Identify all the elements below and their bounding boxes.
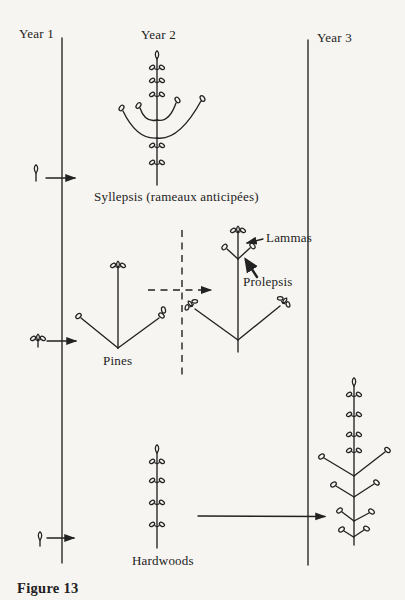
pine-shoot-year2	[75, 261, 166, 348]
hardwoods-caption: Hardwoods	[132, 554, 194, 567]
year1-bud-icon-hardwoods	[38, 532, 41, 546]
hardwoods-growth-arrow-long	[198, 516, 325, 517]
year3-column-label: Year 3	[317, 31, 352, 44]
year1-column-label: Year 1	[19, 27, 54, 40]
pine-shoot-year3-prolepsis	[182, 226, 293, 352]
syllepsis-caption: Syllepsis (rameaux anticipées)	[94, 190, 259, 203]
hardwood-shoot-year3	[318, 378, 391, 545]
year1-bud-icon-syllepsis	[34, 165, 37, 181]
hardwood-shoot-year2	[149, 445, 165, 548]
lammas-pointer-arrow	[247, 239, 263, 243]
lammas-annotation: Lammas	[266, 231, 312, 244]
syllepsis-tree	[118, 51, 206, 185]
figure-caption: Figure 13	[17, 581, 79, 596]
year2-column-label: Year 2	[141, 28, 176, 41]
figure-13-diagram	[0, 0, 405, 600]
figure-page: Year 1 Year 2 Year 3 Syllepsis (rameaux …	[0, 0, 405, 600]
year1-bud-icon-pines	[30, 334, 46, 347]
pines-caption: Pines	[103, 354, 132, 367]
prolepsis-annotation: Prolepsis	[243, 275, 292, 288]
